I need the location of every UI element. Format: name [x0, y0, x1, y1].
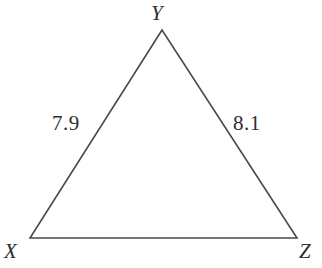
- vertex-label-z: Z: [299, 241, 311, 262]
- side-length-label-xy: 7.9: [52, 113, 80, 134]
- side-length-label-yz: 8.1: [233, 113, 261, 134]
- triangle-figure: Y X Z 7.9 8.1: [0, 0, 322, 268]
- vertex-label-y: Y: [151, 3, 163, 24]
- vertex-label-x: X: [4, 241, 17, 262]
- triangle-outline: [0, 0, 322, 268]
